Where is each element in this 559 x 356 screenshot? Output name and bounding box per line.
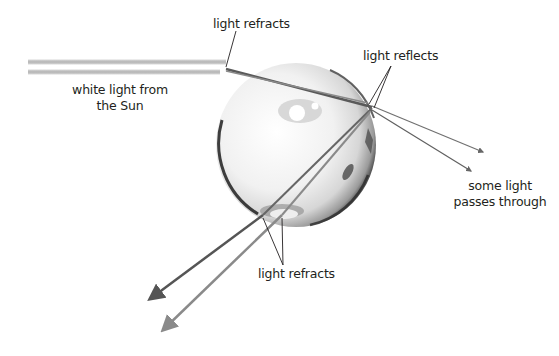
label-passes-line1: some light [450,178,550,194]
transmitted-rays [372,106,483,171]
label-sunlight-line1: white light from [70,82,170,98]
label-sunlight: white light from the Sun [70,82,170,114]
label-sunlight-line2: the Sun [70,98,170,114]
label-top-light-refracts: light refracts [213,16,290,32]
label-passes-through: some light passes through [450,178,550,210]
label-bottom-light-refracts: light refracts [258,266,335,282]
label-passes-line2: passes through [450,194,550,210]
label-light-reflects: light reflects [363,48,438,64]
sunlight-beam [28,60,226,75]
